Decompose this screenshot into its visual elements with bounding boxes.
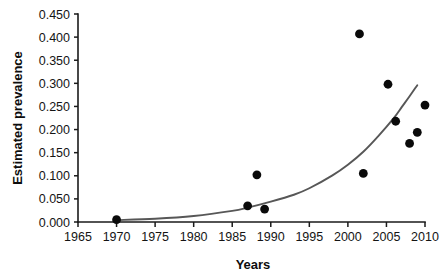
y-tick-label: 0.050 bbox=[39, 192, 70, 206]
x-axis-tick-labels: 1965197019751980198519901995200020052010 bbox=[64, 230, 439, 244]
x-tick-label: 1990 bbox=[257, 230, 285, 244]
scatter-chart: 0.0000.0500.1000.1500.2000.2500.3000.350… bbox=[0, 0, 448, 280]
exponential-fit-curve bbox=[117, 85, 418, 220]
data-point bbox=[243, 201, 252, 210]
data-point bbox=[253, 170, 262, 179]
y-tick-label: 0.350 bbox=[39, 54, 70, 68]
chart-canvas: 0.0000.0500.1000.1500.2000.2500.3000.350… bbox=[0, 0, 448, 280]
y-tick-label: 0.400 bbox=[39, 31, 70, 45]
x-tick-label: 1975 bbox=[141, 230, 169, 244]
x-tick-label: 2010 bbox=[411, 230, 439, 244]
y-tick-label: 0.150 bbox=[39, 146, 70, 160]
data-point bbox=[391, 117, 400, 126]
x-tick-label: 1970 bbox=[103, 230, 131, 244]
y-tick-label: 0.000 bbox=[39, 216, 70, 230]
y-tick-label: 0.200 bbox=[39, 123, 70, 137]
x-tick-label: 1980 bbox=[180, 230, 208, 244]
x-tick-label: 1985 bbox=[218, 230, 246, 244]
x-tick-label: 1965 bbox=[64, 230, 92, 244]
data-point bbox=[421, 101, 430, 110]
data-point bbox=[112, 215, 121, 224]
data-point bbox=[355, 29, 364, 38]
y-axis-title: Estimated prevalence bbox=[10, 51, 25, 185]
data-point bbox=[359, 169, 368, 178]
y-tick-label: 0.100 bbox=[39, 169, 70, 183]
y-tick-label: 0.300 bbox=[39, 77, 70, 91]
data-point bbox=[384, 80, 393, 89]
data-point-group bbox=[112, 29, 429, 224]
y-tick-label: 0.450 bbox=[39, 8, 70, 22]
y-tick-label: 0.250 bbox=[39, 100, 70, 114]
x-tick-label: 2000 bbox=[334, 230, 362, 244]
data-point bbox=[260, 205, 269, 214]
x-axis-title: Years bbox=[236, 257, 271, 272]
data-point bbox=[413, 128, 422, 137]
data-point bbox=[405, 139, 414, 148]
y-axis-tick-labels: 0.0000.0500.1000.1500.2000.2500.3000.350… bbox=[39, 8, 70, 230]
x-tick-label: 2005 bbox=[373, 230, 401, 244]
x-tick-label: 1995 bbox=[295, 230, 323, 244]
